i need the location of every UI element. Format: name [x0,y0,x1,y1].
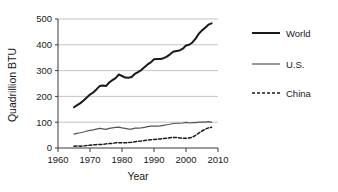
x-tick-label: 2000 [175,154,196,165]
y-tick-label: 400 [36,39,52,50]
y-tick-label: 500 [36,13,52,24]
x-tick-label: 2010 [207,154,228,165]
y-tick-label: 0 [47,142,52,153]
x-axis-title: Year [127,170,149,182]
x-tick-label: 1990 [143,154,164,165]
x-tick-label: 1980 [111,154,132,165]
chart-figure: Quadrillion BTU Year 0100200300400500 19… [0,0,338,192]
y-tick-label: 100 [36,117,52,128]
energy-consumption-line-chart: Quadrillion BTU Year 0100200300400500 19… [0,0,338,192]
y-tick-label: 300 [36,65,52,76]
legend-label-china: China [286,88,312,99]
y-axis-title: Quadrillion BTU [6,48,18,122]
x-tick-label: 1970 [79,154,100,165]
legend-label-world: World [286,28,311,39]
x-tick-label: 1960 [47,154,68,165]
legend-label-us: U.S. [286,59,304,70]
y-tick-label: 200 [36,91,52,102]
